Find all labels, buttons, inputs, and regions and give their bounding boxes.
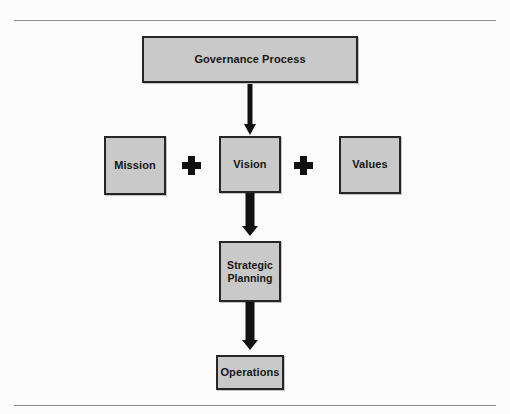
node-operations-label: Operations [220,366,279,379]
arrow-governance-to-vision [242,84,258,136]
diagram-canvas: Governance Process Mission Vision Values… [0,0,510,414]
node-vision-label: Vision [233,158,266,171]
node-strategic-planning-label-line2: Planning [227,272,273,285]
arrow-strategic-planning-to-operations [238,302,262,355]
node-values: Values [339,136,401,194]
bottom-divider-rule [14,405,496,406]
arrow-head [242,226,258,236]
arrow-shaft [246,193,255,228]
arrow-head [242,340,258,350]
plus-icon-mission-vision [182,156,201,175]
arrow-shaft [246,302,255,342]
arrow-head [244,124,256,135]
node-values-label: Values [352,158,387,171]
arrow-shaft [248,84,253,126]
node-vision: Vision [219,136,281,193]
node-governance-process: Governance Process [142,36,358,83]
top-divider-rule [14,20,496,21]
plus-icon-vision-values [294,156,313,175]
node-strategic-planning-label-line1: Strategic [227,259,273,272]
node-mission-label: Mission [114,159,156,172]
node-strategic-planning-label: Strategic Planning [227,259,273,284]
node-governance-process-label: Governance Process [194,53,305,66]
node-mission: Mission [104,136,166,195]
arrow-vision-to-strategic-planning [238,193,262,241]
node-operations: Operations [216,355,284,390]
node-strategic-planning: Strategic Planning [219,241,281,302]
